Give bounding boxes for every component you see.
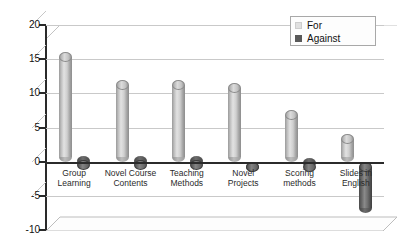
- bar-for-3: [172, 80, 185, 162]
- bar-for-1: [59, 52, 72, 161]
- zero-baseline: [46, 162, 384, 164]
- legend-item-against[interactable]: Against: [295, 32, 371, 45]
- y-axis-tick: [39, 58, 46, 60]
- legend-label-for: For: [307, 20, 322, 31]
- legend-item-for[interactable]: For: [295, 19, 371, 32]
- bar-chart: 20151050-5-10 Group LearningNovel Course…: [0, 0, 397, 248]
- plot-area: [46, 25, 384, 230]
- cylinder-body: [116, 85, 129, 157]
- cylinder-body: [285, 115, 298, 156]
- legend-label-against: Against: [307, 33, 340, 44]
- category-label-1: Group Learning: [46, 168, 102, 188]
- y-axis-label: -5: [31, 191, 40, 201]
- y-axis-label: 15: [29, 54, 40, 64]
- bar-for-4: [228, 83, 241, 162]
- legend-swatch-against-icon: [295, 35, 302, 42]
- cylinder-top-cap: [116, 80, 129, 90]
- cylinder-body: [59, 57, 72, 156]
- category-label-2: Novel Course Contents: [102, 168, 158, 188]
- bar-for-5: [285, 110, 298, 161]
- y-axis-tick: [39, 195, 46, 197]
- y-axis-tick: [39, 92, 46, 94]
- category-label-3: Teaching Methods: [159, 168, 215, 188]
- chart-legend: For Against: [290, 16, 376, 46]
- category-label-4: Novel Projects: [215, 168, 271, 188]
- legend-swatch-for-icon: [295, 22, 302, 29]
- y-axis-tick: [39, 161, 46, 163]
- y-axis-label: -10: [26, 225, 40, 235]
- category-label-6: Slides in English: [328, 168, 384, 188]
- category-label-5: Scoring methods: [271, 168, 327, 188]
- cylinder-body: [228, 88, 241, 157]
- cylinder-top-cap: [172, 80, 185, 90]
- y-axis-tick: [39, 229, 46, 231]
- y-axis-label: 10: [29, 88, 40, 98]
- bar-for-6: [341, 134, 354, 161]
- y-axis-label: 0: [34, 157, 40, 167]
- y-axis-tick: [39, 24, 46, 26]
- y-axis-label: 20: [29, 20, 40, 30]
- y-axis-label: 5: [34, 123, 40, 133]
- bar-for-2: [116, 80, 129, 162]
- y-axis-tick: [39, 127, 46, 129]
- cylinder-body: [172, 85, 185, 157]
